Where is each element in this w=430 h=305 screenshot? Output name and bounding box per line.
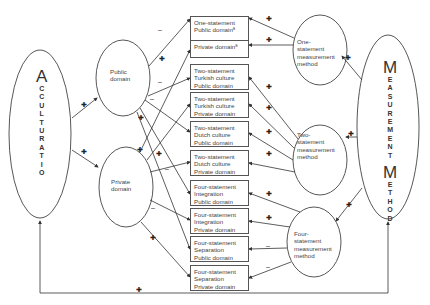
sign-plus-one-priv: ✚ [266, 36, 272, 44]
two-statement-method-label: Two- statement measurement method [297, 131, 335, 160]
sign-plus-acc-public: ✚ [81, 101, 87, 109]
indicator-box-two-dutch-private: Two-statement Dutch culture Private doma… [190, 150, 249, 176]
measurement-initial: M [383, 60, 397, 76]
public-domain-label: Public domain [110, 68, 130, 83]
sign-plus-two-3: ✚ [266, 128, 272, 136]
indicator-box-four-separation-private: Four-statement Separation Private domain [190, 265, 249, 291]
indicator-box-two-turkish-public: Two-statement Turkish culture Public dom… [190, 64, 249, 90]
sign-minus-four-3: – [266, 242, 270, 249]
sign-minus-pub-one: – [158, 26, 162, 33]
sign-minus-four-4: – [266, 263, 270, 270]
sign-plus-acc-private: ✚ [81, 148, 87, 156]
sign-plus-two-4: ✚ [266, 150, 272, 158]
method-initial: M [383, 165, 397, 181]
sign-minus-pub-integ: – [150, 95, 154, 102]
indicator-box-four-integration-public: Four-statement Integration Public domain [190, 180, 249, 206]
sign-plus-four-1: ✚ [266, 190, 272, 198]
acculturation-label: A C C U L T U R A T I O [36, 69, 47, 177]
indicator-box-one-statement: One-statement Public domainª Private dom… [190, 16, 249, 58]
sign-plus-priv-turk: ✚ [156, 150, 162, 158]
sign-plus-priv-sep: ✚ [150, 234, 156, 242]
sign-plus-one-pub: ✚ [266, 15, 272, 23]
private-domain-label: Private domain [111, 178, 131, 193]
sign-plus-pub-turk: ✚ [159, 55, 165, 63]
four-statement-method-label: Four- statement measurement method [294, 230, 332, 259]
sign-plus-mm-four: ✚ [346, 201, 352, 209]
sign-plus-two-2: ✚ [266, 104, 272, 112]
sign-minus-priv-dutch: – [165, 165, 169, 172]
acculturation-initial: A [36, 69, 47, 85]
one-statement-method-label: One- statement measurement method [297, 38, 335, 67]
sign-plus-mm-one: ✚ [345, 54, 351, 62]
sign-plus-four-2: ✚ [266, 214, 272, 222]
sign-plus-priv-one: ✚ [137, 146, 143, 154]
sign-plus-two-1: ✚ [266, 83, 272, 91]
indicator-box-two-dutch-public: Two-statement Dutch culture Public domai… [190, 121, 249, 147]
indicator-box-four-integration-private: Four-statement Integration Private domai… [190, 208, 249, 234]
sign-plus-bottom: ✚ [136, 286, 142, 294]
sign-plus-pub-sep: ✚ [138, 114, 144, 122]
sign-minus-pub-dutch: – [158, 78, 162, 85]
sign-plus-mm-two: ✚ [348, 130, 354, 138]
indicator-box-four-separation-public: Four-statement Separation Public domain [190, 236, 249, 262]
indicator-box-two-turkish-private: Two-statement Turkish culture Private do… [190, 92, 249, 118]
sign-minus-priv-integ: – [151, 204, 155, 211]
measurement-method-label: M E A S U R E M E N T M E T H O D [383, 60, 397, 223]
